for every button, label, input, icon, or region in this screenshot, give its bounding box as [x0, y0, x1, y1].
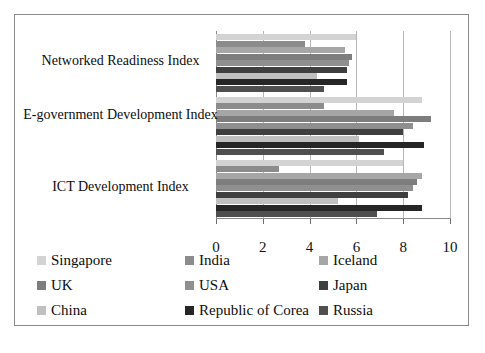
bar — [216, 205, 422, 211]
x-axis-tick — [403, 219, 404, 224]
bar — [216, 123, 413, 129]
bar — [216, 73, 317, 79]
legend-label: USA — [199, 277, 229, 294]
bar — [216, 179, 417, 185]
bar-group — [216, 97, 451, 155]
legend-label: Republic of Corea — [199, 302, 309, 319]
legend-item[interactable]: Singapore — [37, 252, 185, 269]
y-axis-category-label: Networked Readiness Index — [13, 53, 228, 69]
x-axis-tick — [310, 219, 311, 224]
bar — [216, 142, 424, 148]
bar — [216, 110, 394, 116]
bar — [216, 160, 403, 166]
bar-group — [216, 34, 451, 92]
bar — [216, 198, 338, 204]
bar — [216, 166, 279, 172]
legend-item[interactable]: China — [37, 302, 185, 319]
legend-swatch-icon — [319, 306, 328, 315]
bar — [216, 185, 413, 191]
bar — [216, 67, 347, 73]
legend-label: Singapore — [51, 252, 112, 269]
bar — [216, 54, 352, 60]
legend-label: Russia — [333, 302, 373, 319]
bar-group — [216, 160, 451, 218]
legend-item[interactable]: Russia — [319, 302, 439, 319]
legend-swatch-icon — [37, 256, 46, 265]
legend-item[interactable]: USA — [185, 277, 319, 294]
chart-legend: SingaporeIndiaIcelandUKUSAJapanChinaRepu… — [37, 248, 447, 323]
legend-label: Japan — [333, 277, 367, 294]
legend-label: China — [51, 302, 87, 319]
bar — [216, 79, 347, 85]
legend-swatch-icon — [37, 281, 46, 290]
bar — [216, 97, 422, 103]
bar — [216, 116, 431, 122]
legend-item[interactable]: Republic of Corea — [185, 302, 319, 319]
legend-row: SingaporeIndiaIceland — [37, 248, 447, 273]
bar — [216, 34, 356, 40]
x-axis-line — [216, 218, 451, 219]
y-axis-category-label: ICT Development Index — [13, 179, 228, 195]
legend-swatch-icon — [185, 281, 194, 290]
bar — [216, 136, 359, 142]
legend-label: UK — [51, 277, 73, 294]
x-axis-tick — [216, 219, 217, 224]
legend-item[interactable]: UK — [37, 277, 185, 294]
bar — [216, 47, 345, 53]
x-axis-tick — [356, 219, 357, 224]
legend-item[interactable]: Iceland — [319, 252, 439, 269]
legend-swatch-icon — [37, 306, 46, 315]
legend-swatch-icon — [185, 256, 194, 265]
x-axis-tick — [263, 219, 264, 224]
legend-swatch-icon — [319, 256, 328, 265]
bar — [216, 129, 403, 135]
bar — [216, 192, 408, 198]
bar — [216, 103, 324, 109]
bar — [216, 41, 305, 47]
legend-label: India — [199, 252, 230, 269]
bar — [216, 60, 349, 66]
y-axis-category-label: E-government Development Index — [13, 107, 228, 123]
bar — [216, 86, 324, 92]
chart-figure: 0246810Networked Readiness IndexE-govern… — [14, 14, 469, 326]
x-axis-tick — [450, 219, 451, 224]
bar — [216, 211, 377, 217]
legend-swatch-icon — [319, 281, 328, 290]
legend-item[interactable]: Japan — [319, 277, 439, 294]
legend-row: ChinaRepublic of CoreaRussia — [37, 298, 447, 323]
legend-label: Iceland — [333, 252, 377, 269]
bar — [216, 173, 422, 179]
bar — [216, 149, 384, 155]
legend-row: UKUSAJapan — [37, 273, 447, 298]
plot-area: 0246810Networked Readiness IndexE-govern… — [216, 31, 451, 219]
legend-item[interactable]: India — [185, 252, 319, 269]
legend-swatch-icon — [185, 306, 194, 315]
